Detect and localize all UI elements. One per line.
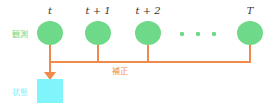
observation-node-t2: [135, 21, 161, 45]
kalman-diagram: t t + 1 t + 2 T 観測 補正 状態: [0, 0, 273, 105]
state-label: 状態: [12, 86, 28, 97]
time-label-t: t: [30, 5, 70, 16]
observation-label: 観測: [12, 28, 28, 39]
observation-node-t1: [85, 21, 111, 45]
correction-label: 補正: [112, 65, 128, 76]
time-label-t1: t + 1: [78, 5, 118, 16]
ellipsis-dot: [180, 32, 184, 36]
time-label-t2: t + 2: [128, 5, 168, 16]
observation-node-T: [237, 21, 263, 45]
observation-node-t: [37, 21, 63, 45]
state-box: [37, 79, 63, 103]
ellipsis-dot: [196, 32, 200, 36]
ellipsis-dot: [212, 32, 216, 36]
time-label-T: T: [230, 5, 270, 16]
